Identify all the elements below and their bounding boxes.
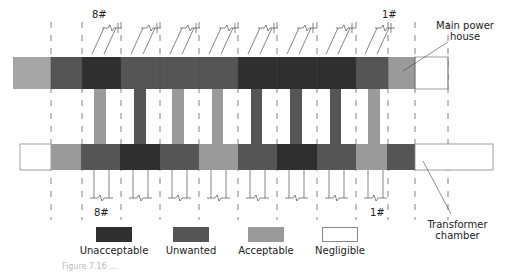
zigzag-break-icon (90, 195, 113, 201)
bottom-segment-negligible (415, 144, 493, 170)
zigzag-break-icon (258, 25, 278, 31)
top-segment-unwanted (356, 57, 388, 89)
unit-pipe-line (326, 28, 338, 54)
connector-unwanted (134, 89, 146, 144)
bottom-segment-unacceptable (277, 144, 317, 170)
connector-unwanted (290, 89, 302, 144)
zigzag-break-icon (297, 25, 317, 31)
top-segment-edge_gray (13, 57, 51, 89)
legend-label: Negligible (300, 245, 380, 256)
unit-pipe-line (287, 28, 299, 54)
bottom-segment-unwanted (160, 144, 199, 170)
zigzag-break-icon (129, 195, 152, 201)
zigzag-break-icon (285, 195, 308, 201)
bottom-segment-acceptable (199, 144, 238, 170)
unit-pipe-line (377, 28, 389, 54)
connector-unwanted (330, 89, 341, 144)
legend-swatch-unacceptable (96, 227, 132, 242)
tunnel-risk-diagram: 8# 1# Main power house 8# 1# Transformer… (0, 0, 509, 272)
bottom-segment-unwanted (317, 144, 356, 170)
zigzag-break-icon (219, 25, 239, 31)
unit-pipe-line (104, 28, 116, 54)
top-segment-unacceptable (317, 57, 356, 89)
bottom-segment-unacceptable (120, 144, 160, 170)
figure-caption: Figure 7.16 ... (62, 262, 117, 271)
top-segment-unacceptable (82, 57, 121, 89)
legend-negligible: Negligible (300, 227, 380, 256)
unit-pipe-line (131, 28, 143, 54)
unit-pipe-line (182, 28, 194, 54)
top-segment-unwanted (51, 57, 82, 89)
legend-swatch-acceptable (248, 227, 284, 242)
unit-pipe-line (143, 28, 155, 54)
zigzag-break-icon (141, 25, 161, 31)
zigzag-break-icon (102, 25, 122, 31)
legend-label: Acceptable (226, 245, 306, 256)
unit-pipe-line (299, 28, 311, 54)
zigzag-break-icon (180, 25, 200, 31)
unit-pipe-line (92, 28, 104, 54)
legend-swatch-unwanted (173, 227, 209, 242)
unit-pipe-line (221, 28, 233, 54)
zigzag-break-icon (375, 25, 395, 31)
top-segment-unacceptable (277, 57, 317, 89)
legend-swatch-negligible (322, 227, 358, 242)
unit-pipe-line (248, 28, 260, 54)
connector-unwanted (251, 89, 262, 144)
bottom-segment-acceptable (51, 144, 81, 170)
top-left-unit-label: 8# (92, 9, 107, 20)
unit-pipe-line (365, 28, 377, 54)
top-segment-unwanted (121, 57, 160, 89)
top-segment-unwanted (199, 57, 238, 89)
unit-pipe-line (170, 28, 182, 54)
zigzag-break-icon (207, 195, 230, 201)
connector-acceptable (368, 89, 380, 144)
legend-acceptable: Acceptable (226, 227, 306, 256)
bottom-segment-negligible (20, 144, 51, 170)
zigzag-break-icon (325, 195, 348, 201)
top-segment-negligible (415, 57, 448, 89)
main-power-house-label: Main power house (420, 20, 509, 42)
zigzag-break-icon (246, 195, 269, 201)
zigzag-break-icon (364, 195, 387, 201)
top-right-unit-label: 1# (382, 9, 397, 20)
zigzag-break-icon (168, 195, 191, 201)
top-segment-acceptable (388, 57, 415, 89)
bottom-left-unit-label: 8# (94, 207, 109, 218)
zigzag-break-icon (336, 25, 356, 31)
bottom-right-unit-label: 1# (370, 207, 385, 218)
top-segment-unwanted (160, 57, 199, 89)
bottom-segment-unwanted (81, 144, 120, 170)
legend-label: Unwanted (151, 245, 231, 256)
legend-unwanted: Unwanted (151, 227, 231, 256)
bottom-segment-unwanted (238, 144, 277, 170)
connector-acceptable (94, 89, 106, 144)
transformer-chamber-label: Transformer chamber (420, 219, 495, 241)
legend-unacceptable: Unacceptable (74, 227, 154, 256)
top-segment-unacceptable (238, 57, 277, 89)
bottom-segment-unwanted (387, 144, 415, 170)
legend-label: Unacceptable (74, 245, 154, 256)
unit-pipe-line (209, 28, 221, 54)
unit-pipe-line (260, 28, 272, 54)
connector-acceptable (212, 89, 223, 144)
bottom-segment-acceptable (356, 144, 387, 170)
unit-pipe-line (338, 28, 350, 54)
connector-acceptable (172, 89, 184, 144)
